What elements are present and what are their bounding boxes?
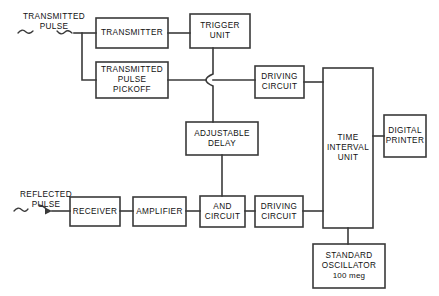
transmitted-pulse-squiggle-left — [18, 30, 33, 33]
block-amplifier — [133, 197, 186, 226]
block-adjustable-delay — [186, 122, 258, 155]
diagram-canvas — [0, 0, 439, 296]
block-digital-printer — [384, 115, 426, 157]
block-transmitted-pulse-pickoff — [96, 62, 168, 98]
block-receiver — [70, 197, 120, 226]
block-standard-oscillator — [313, 244, 385, 288]
block-trigger-unit — [190, 14, 250, 48]
block-diagram: TRANSMITTER TRIGGER UNIT TRANSMITTED PUL… — [0, 0, 439, 296]
reflected-pulse-squiggle-left — [14, 208, 28, 211]
wire-transmitter-tap-to-pickoff — [82, 33, 96, 80]
block-transmitter — [96, 18, 168, 48]
block-driving-circuit-top — [255, 66, 304, 98]
block-time-interval-unit — [323, 68, 373, 228]
reflected-pulse-squiggle-right — [39, 205, 46, 209]
reflected-pulse-arrowhead — [45, 208, 52, 215]
block-driving-circuit-bottom — [255, 196, 303, 227]
block-and-circuit — [200, 196, 245, 227]
transmitted-pulse-squiggle-right — [57, 31, 72, 34]
wire-trigger-unit-to-adjustable-delay — [206, 48, 213, 122]
